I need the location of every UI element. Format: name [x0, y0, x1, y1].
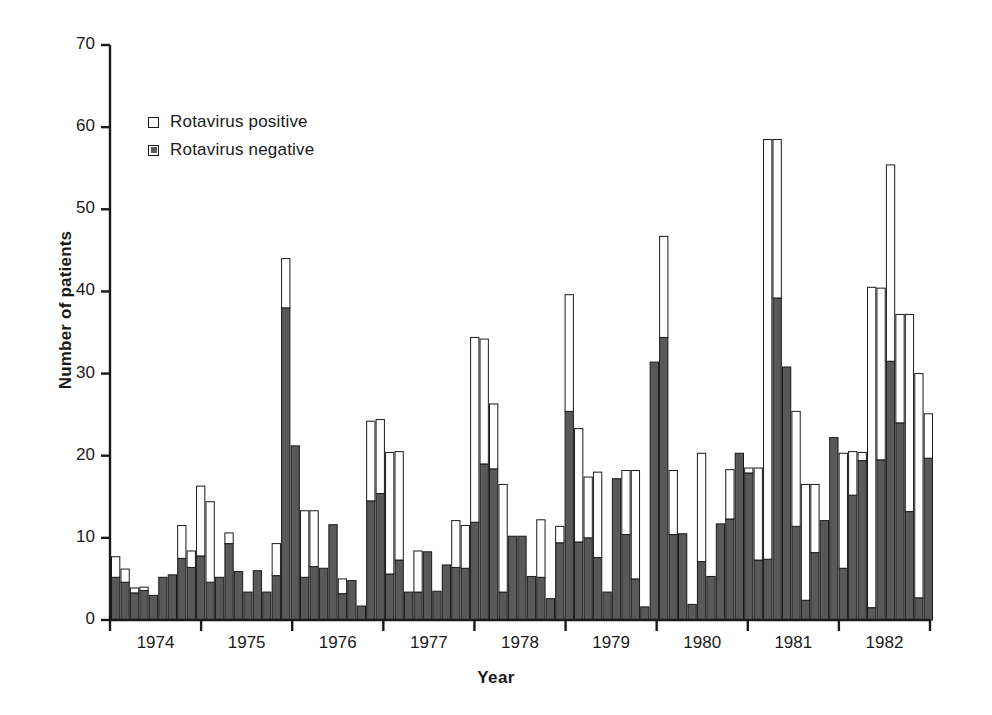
bar-segment-negative: [461, 568, 469, 620]
bar-group: [452, 521, 460, 620]
bar-segment-negative: [159, 577, 167, 620]
x-axis-tick-label: 1974: [121, 633, 191, 653]
bar-segment-negative: [471, 522, 479, 620]
bar-segment-negative: [197, 556, 205, 620]
bar-segment-positive: [697, 453, 705, 561]
bar-group: [631, 471, 639, 621]
bar-segment-positive: [915, 374, 923, 598]
bar-group: [820, 521, 828, 620]
bar-group: [593, 472, 601, 620]
bar-segment-positive: [112, 557, 120, 578]
y-axis-tick-label: 50: [51, 198, 95, 218]
bar-group: [660, 236, 668, 620]
bar-segment-negative: [924, 458, 932, 620]
bar-segment-negative: [140, 590, 148, 620]
y-axis-tick-label: 40: [51, 280, 95, 300]
bar-segment-negative: [187, 567, 195, 620]
bar-group: [121, 569, 129, 620]
bar-segment-negative: [112, 577, 120, 620]
bar-segment-negative: [414, 592, 422, 620]
x-axis-tick-label: 1982: [849, 633, 919, 653]
bar-group: [442, 565, 450, 620]
bar-group: [376, 420, 384, 620]
bar-segment-negative: [868, 608, 876, 620]
bar-segment-negative: [386, 574, 394, 620]
bar-group: [310, 511, 318, 620]
bar-segment-negative: [433, 591, 441, 620]
bar-group: [679, 534, 687, 620]
bar-group: [272, 544, 280, 620]
bar-segment-positive: [499, 484, 507, 592]
bar-segment-positive: [367, 421, 375, 501]
bar-group: [404, 592, 412, 620]
bar-segment-positive: [660, 236, 668, 337]
bar-group: [301, 511, 309, 620]
bar-segment-negative: [726, 519, 734, 620]
bar-group: [527, 576, 535, 620]
bar-segment-negative: [215, 577, 223, 620]
bar-group: [480, 339, 488, 620]
x-axis-tick-label: 1980: [667, 633, 737, 653]
bar-group: [830, 438, 838, 620]
bar-segment-negative: [801, 600, 809, 620]
bar-segment-negative: [518, 536, 526, 620]
bar-group: [234, 572, 242, 620]
legend-item-negative: Rotavirus negative: [148, 136, 314, 164]
bar-segment-negative: [546, 599, 554, 620]
bar-segment-positive: [849, 452, 857, 496]
bar-group: [244, 592, 252, 620]
bar-group: [263, 592, 271, 620]
bar-segment-negative: [849, 495, 857, 620]
bar-group: [773, 139, 781, 620]
bar-segment-negative: [830, 438, 838, 620]
bar-segment-positive: [886, 165, 894, 361]
bar-segment-positive: [764, 139, 772, 559]
bar-segment-positive: [839, 453, 847, 568]
bar-segment-negative: [508, 536, 516, 620]
bar-segment-positive: [386, 452, 394, 574]
bar-segment-positive: [669, 471, 677, 535]
bar-group: [471, 337, 479, 620]
bar-group: [461, 526, 469, 620]
bar-segment-positive: [187, 551, 195, 567]
bar-segment-positive: [631, 471, 639, 579]
bar-segment-positive: [575, 429, 583, 542]
bar-segment-negative: [234, 572, 242, 620]
bar-segment-negative: [764, 559, 772, 620]
bar-segment-positive: [792, 411, 800, 526]
bar-segment-positive: [452, 521, 460, 568]
bar-group: [168, 575, 176, 620]
bar-group: [178, 526, 186, 620]
bar-segment-positive: [593, 472, 601, 557]
bar-segment-negative: [612, 479, 620, 620]
bar-group: [490, 404, 498, 620]
bar-group: [622, 471, 630, 621]
bar-group: [357, 606, 365, 620]
bar-segment-positive: [858, 452, 866, 460]
bar-group: [896, 314, 904, 620]
bar-group: [291, 446, 299, 620]
bar-segment-negative: [272, 576, 280, 620]
bar-group: [414, 551, 422, 620]
bar-segment-negative: [593, 558, 601, 620]
bar-segment-negative: [329, 525, 337, 620]
legend-swatch-positive-icon: [148, 117, 159, 128]
bar-group: [518, 536, 526, 620]
bar-group: [877, 288, 885, 620]
bar-group: [112, 557, 120, 620]
bar-segment-negative: [338, 594, 346, 620]
bar-group: [612, 479, 620, 620]
bar-group: [886, 165, 894, 620]
bar-group: [641, 607, 649, 620]
bar-segment-negative: [716, 524, 724, 620]
bar-group: [206, 502, 214, 620]
bar-segment-negative: [130, 593, 138, 620]
bar-segment-positive: [272, 544, 280, 576]
bar-segment-positive: [414, 551, 422, 592]
bar-segment-negative: [896, 423, 904, 620]
bar-segment-negative: [149, 595, 157, 620]
bar-segment-positive: [556, 526, 564, 542]
bar-segment-positive: [584, 477, 592, 538]
bar-segment-positive: [754, 468, 762, 560]
bar-group: [338, 579, 346, 620]
